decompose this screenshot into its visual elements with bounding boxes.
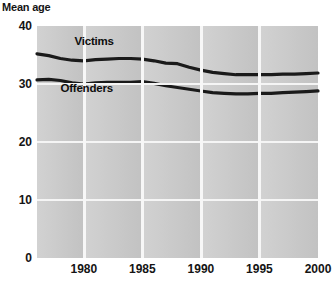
vertical-gridline [141,26,144,258]
series-label-victims: Victims [74,35,113,47]
horizontal-gridline [37,141,318,143]
x-axis-tick-label: 1985 [112,262,172,276]
y-axis-tick-label: 10 [0,194,32,206]
y-axis-tick-label: 20 [0,136,32,148]
vertical-gridline [83,26,86,258]
horizontal-gridline [37,199,318,201]
plot-area [37,26,318,258]
x-axis-tick-label: 2000 [288,262,336,276]
series-label-offenders: Offenders [60,82,113,94]
y-axis-tick-label: 30 [0,78,32,90]
chart-axis-title: Mean age [2,1,51,13]
x-axis-tick-label: 1980 [54,262,114,276]
y-axis-tick-label: 40 [0,20,32,32]
series-line [37,54,318,75]
vertical-gridline [258,26,261,258]
x-axis-tick-label: 1990 [171,262,231,276]
chart-container: Mean age 403020100 19801985199019952000 … [0,0,336,288]
y-axis-tick-label: 0 [0,252,32,264]
x-axis-tick-label: 1995 [229,262,289,276]
vertical-gridline [200,26,203,258]
